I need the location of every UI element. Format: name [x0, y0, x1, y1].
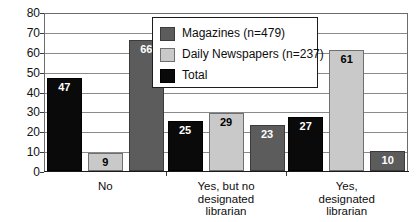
- bar-value-label: 61: [341, 54, 353, 65]
- bar-value-label: 27: [300, 121, 312, 132]
- legend-label: Magazines (n=479): [182, 27, 285, 40]
- legend-label: Daily Newspapers (n=237): [182, 48, 324, 61]
- bar-daily-2: 61: [329, 50, 364, 171]
- bar-magazines-2: 10: [370, 151, 405, 171]
- x-category-label-2: Yes,designatedlibrarian: [287, 180, 407, 218]
- x-category-line: librarian: [287, 205, 407, 218]
- bar-magazines-1: 23: [250, 125, 285, 171]
- legend-item-magazines[interactable]: Magazines (n=479): [160, 23, 311, 44]
- bar-value-label: 47: [58, 82, 70, 93]
- x-tick-mark: [286, 172, 287, 176]
- y-tick-label: 60: [0, 47, 40, 59]
- y-tick-label: 50: [0, 67, 40, 79]
- y-tick-label: 40: [0, 87, 40, 99]
- y-tick-mark: [40, 172, 44, 173]
- x-category-label-1: Yes, but nodesignatedlibrarian: [166, 180, 286, 218]
- bar-value-label: 9: [102, 157, 108, 168]
- bar-chart: 80706050403020100 47966252923276110 Maga…: [0, 0, 416, 222]
- legend-item-total[interactable]: Total: [160, 65, 311, 86]
- bar-daily-0: 9: [88, 153, 123, 171]
- bar-value-label: 66: [140, 44, 152, 55]
- x-category-line: designated: [166, 193, 286, 206]
- bar-value-label: 10: [382, 155, 394, 166]
- x-category-line: designated: [287, 193, 407, 206]
- bar-value-label: 23: [261, 129, 273, 140]
- x-category-line: librarian: [166, 205, 286, 218]
- legend-swatch-magazines-icon: [160, 27, 175, 41]
- bar-daily-1: 29: [209, 113, 244, 171]
- bar-value-label: 25: [179, 125, 191, 136]
- x-category-line: Yes, but no: [166, 180, 286, 193]
- y-tick-label: 20: [0, 126, 40, 138]
- x-category-label-0: No: [45, 180, 165, 193]
- legend-label: Total: [182, 69, 207, 82]
- x-tick-mark: [166, 172, 167, 176]
- y-tick-label: 10: [0, 146, 40, 158]
- bar-value-label: 29: [220, 117, 232, 128]
- chart-legend: Magazines (n=479)Daily Newspapers (n=237…: [152, 17, 318, 88]
- x-category-line: Yes,: [287, 180, 407, 193]
- y-tick-label: 70: [0, 27, 40, 39]
- x-category-line: No: [45, 180, 165, 193]
- legend-swatch-daily-icon: [160, 48, 175, 62]
- bar-total-0: 47: [47, 78, 82, 171]
- y-tick-label: 80: [0, 7, 40, 19]
- y-axis: 80706050403020100: [0, 0, 40, 222]
- y-tick-label: 0: [0, 166, 40, 178]
- legend-swatch-total-icon: [160, 69, 175, 83]
- legend-item-daily[interactable]: Daily Newspapers (n=237): [160, 44, 311, 65]
- bar-total-1: 25: [168, 121, 203, 171]
- y-tick-label: 30: [0, 106, 40, 118]
- bar-total-2: 27: [288, 117, 323, 171]
- x-axis-baseline: [44, 171, 409, 172]
